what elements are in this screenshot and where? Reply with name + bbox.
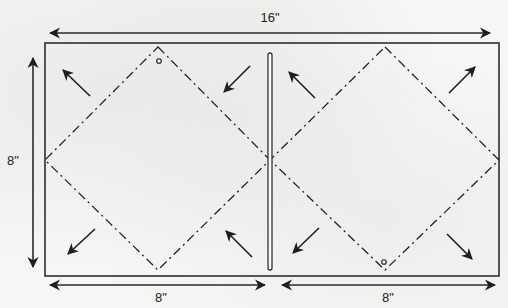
arrow-right-top-left-icon [289,72,315,98]
arrow-left-bottom-left-icon [68,229,95,254]
arrow-right-bottom-left-icon [293,228,319,253]
left-diamond-marker-circle-icon [157,59,162,64]
diagram-canvas: 16" 8" 8" 8" [0,0,508,308]
center-slot [268,53,272,270]
arrow-right-top-right-icon [449,67,475,93]
arrow-right-bottom-right-icon [447,234,472,259]
right-diamond-fold-line [270,47,499,270]
arrow-left-bottom-right-icon [226,231,252,257]
left-half-width-label: 8" [155,291,167,304]
width-label: 16" [260,11,279,24]
right-diamond-marker-circle-icon [382,260,387,265]
height-label: 8" [7,154,19,167]
diagram-svg [0,0,508,308]
arrow-left-top-right-icon [224,66,250,92]
arrow-left-top-left-icon [63,70,90,96]
right-half-width-label: 8" [382,291,394,304]
